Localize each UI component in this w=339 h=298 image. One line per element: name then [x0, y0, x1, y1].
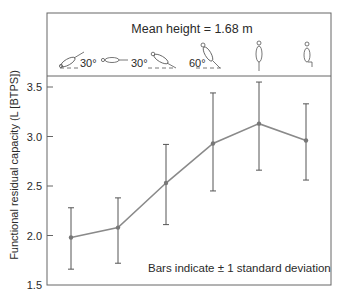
chart-frame [47, 13, 331, 285]
y-tick-label: 3.5 [27, 81, 42, 93]
data-point [304, 138, 308, 142]
data-point [211, 141, 215, 145]
data-point [69, 235, 73, 239]
y-tick-label: 2.0 [27, 230, 42, 242]
posture-icons [59, 41, 312, 71]
chart: Mean height = 1.68 m [0, 0, 339, 298]
y-axis: 1.52.02.53.03.5 [27, 81, 53, 291]
sitting-icon [304, 42, 312, 67]
y-tick-label: 2.5 [27, 180, 42, 192]
y-axis-label: Functional residual capacity (L [BTPS]) [8, 70, 20, 260]
error-bar [256, 82, 262, 170]
angle-labels: 30° 30° 60° [80, 57, 206, 69]
chart-title: Mean height = 1.68 m [131, 22, 252, 36]
data-point [257, 121, 261, 125]
angle-label-1: 30° [80, 57, 97, 69]
chart-svg: Mean height = 1.68 m [0, 0, 339, 298]
sd-annotation: Bars indicate ± 1 standard deviation [148, 262, 331, 274]
series-line [71, 124, 306, 238]
data-point [164, 181, 168, 185]
y-tick-label: 1.5 [27, 279, 42, 291]
supine-icon [101, 58, 128, 63]
error-bar [115, 198, 121, 263]
data-point [116, 225, 120, 229]
angle-label-3: 30° [131, 57, 148, 69]
standing-icon [256, 41, 262, 71]
data-series [68, 82, 309, 269]
head-up-tilt-30-icon [148, 52, 176, 68]
angle-label-4: 60° [189, 57, 206, 69]
y-tick-label: 3.0 [27, 131, 42, 143]
